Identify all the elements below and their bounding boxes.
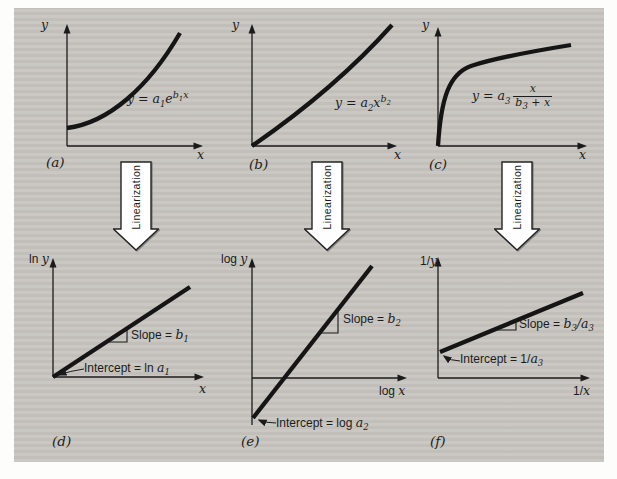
panel-a-equation: y = a1eb1x xyxy=(127,90,189,109)
panel-b-y-axis-arrowhead xyxy=(249,24,256,34)
panel-c-equation-fraction: x b3 + x xyxy=(513,83,552,112)
panel-a-exponential-curve xyxy=(67,33,180,128)
panel-d-caption: (d) xyxy=(52,434,71,449)
panel-e-y-axis-arrowhead xyxy=(249,258,256,268)
panel-c-x-axis-label: x xyxy=(579,148,586,162)
panel-f-intercept-pointer xyxy=(444,356,460,361)
linearization-arrow-2-label: Linearization xyxy=(321,165,333,230)
panel-a-y-axis-arrowhead xyxy=(64,24,71,34)
panel-d-y-axis-arrowhead xyxy=(50,258,57,268)
panel-d-slope-annotation: Slope = b1 xyxy=(131,328,189,345)
panel-f-caption: (f) xyxy=(430,434,446,449)
panel-b-plot xyxy=(225,10,405,165)
panel-b-power-curve xyxy=(252,25,392,146)
linearization-arrow-3-label: Linearization xyxy=(511,165,523,230)
panel-c-equation: y = a3 x b3 + x xyxy=(472,83,552,112)
panel-d-intercept-annotation: Intercept = ln a1 xyxy=(84,361,170,378)
panel-a-plot xyxy=(30,10,210,165)
panel-c-caption: (c) xyxy=(429,157,447,172)
linearization-arrow-2: Linearization xyxy=(304,161,350,251)
linearization-arrow-1: Linearization xyxy=(113,161,159,251)
panel-e-intercept-annotation: Intercept = log a2 xyxy=(276,416,369,433)
panel-e-intercept-pointer xyxy=(259,420,276,423)
panel-c-y-axis-label: y xyxy=(422,18,429,32)
panel-f-x-axis-label: 1/x xyxy=(573,384,590,398)
panel-e-x-axis-arrowhead xyxy=(398,375,408,382)
panel-d-x-axis-label: x xyxy=(199,382,206,396)
panel-b-caption: (b) xyxy=(249,157,268,172)
panel-e-caption: (e) xyxy=(241,434,260,449)
panel-f-x-axis-arrowhead xyxy=(581,375,591,382)
panel-a-caption: (a) xyxy=(46,155,65,170)
panel-e-y-axis-label: log y xyxy=(221,252,247,266)
panel-a-x-axis-label: x xyxy=(197,148,204,162)
panel-c-y-axis-arrowhead xyxy=(435,27,442,37)
panel-b-equation: y = a2xb2 xyxy=(335,94,391,113)
panel-d-x-axis-arrowhead xyxy=(195,374,205,381)
panel-f-y-axis-label: 1/y xyxy=(420,254,437,268)
panel-e-slope-annotation: Slope = b2 xyxy=(343,312,401,329)
panel-f-slope-annotation: Slope = b3/a3 xyxy=(519,317,594,334)
panel-f-intercept-annotation: Intercept = 1/a3 xyxy=(460,352,543,369)
linearization-arrow-1-label: Linearization xyxy=(130,165,142,230)
panel-e-plot xyxy=(220,248,415,433)
panel-e-x-axis-label: log x xyxy=(379,384,405,398)
panel-a-y-axis-label: y xyxy=(41,18,48,32)
panel-b-y-axis-label: y xyxy=(232,18,239,32)
panel-e-fit-line xyxy=(253,266,372,418)
panel-b-x-axis-label: x xyxy=(394,148,401,162)
linearization-arrow-3: Linearization xyxy=(494,161,540,251)
figure-linearization: y x y = a1eb1x (a) y x y = a2xb2 (b) y x… xyxy=(0,0,617,479)
panel-d-y-axis-label: ln y xyxy=(29,252,49,266)
